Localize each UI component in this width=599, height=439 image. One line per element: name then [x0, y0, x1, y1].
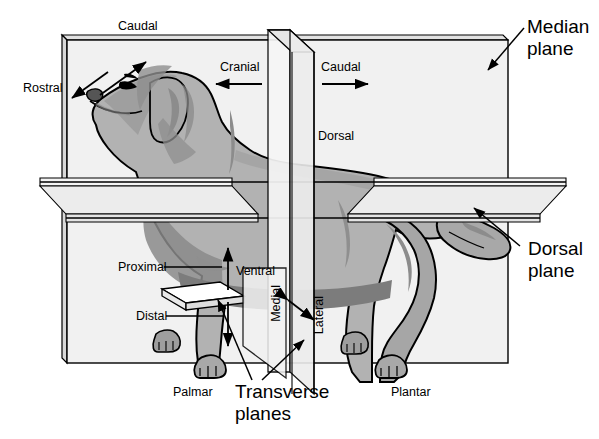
- diagram-canvas: Caudal Rostral Cranial Caudal Dorsal Ven…: [0, 0, 599, 439]
- label-caudal-top: Caudal: [118, 20, 158, 33]
- transverse-planes-line1: Transverse: [235, 381, 329, 402]
- anatomy-diagram-svg: [0, 0, 599, 439]
- dorsal-plane-line1: Dorsal: [528, 238, 583, 259]
- label-caudal-mid: Caudal: [321, 61, 361, 74]
- label-cranial: Cranial: [220, 61, 260, 74]
- median-plane-line2: plane: [527, 38, 574, 59]
- label-plantar: Plantar: [391, 386, 431, 399]
- label-distal: Distal: [136, 310, 167, 323]
- label-dorsal-plane: Dorsal plane: [528, 238, 583, 282]
- label-rostral: Rostral: [23, 82, 63, 95]
- label-ventral: Ventral: [236, 265, 275, 278]
- transverse-planes-line2: planes: [235, 403, 291, 424]
- dorsal-plane-line2: plane: [528, 260, 575, 281]
- label-palmar: Palmar: [173, 386, 213, 399]
- median-plane-line1: Median: [527, 16, 589, 37]
- label-transverse-planes: Transverse planes: [235, 381, 329, 425]
- label-lateral: Lateral: [313, 296, 326, 334]
- label-medial: Medial: [270, 285, 283, 322]
- label-dorsal: Dorsal: [318, 130, 354, 143]
- label-proximal: Proximal: [118, 261, 167, 274]
- label-median-plane: Median plane: [527, 16, 589, 60]
